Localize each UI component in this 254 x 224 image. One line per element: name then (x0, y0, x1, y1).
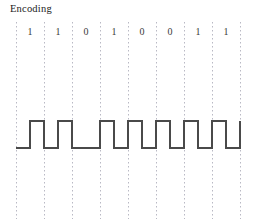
bit-label: 1 (44, 26, 72, 37)
signal-waveform (16, 121, 240, 148)
bit-label: 1 (100, 26, 128, 37)
bit-label: 1 (212, 26, 240, 37)
bit-label: 0 (156, 26, 184, 37)
bit-label-row: 11010011 (0, 26, 254, 42)
bit-label: 1 (16, 26, 44, 37)
bit-label: 0 (128, 26, 156, 37)
encoding-figure: Encoding 11010011 (0, 0, 254, 224)
bit-label: 1 (184, 26, 212, 37)
bit-label: 0 (72, 26, 100, 37)
